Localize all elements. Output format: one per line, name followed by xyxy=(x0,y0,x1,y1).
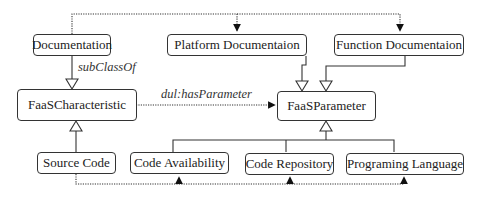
subclass-edge-platform xyxy=(302,56,306,81)
node-programing-language: Programing Language xyxy=(346,153,464,175)
node-faas-characteristic: FaaSCharacteristic xyxy=(17,89,137,121)
node-code-repository: Code Repository xyxy=(245,153,334,175)
node-source-code: Source Code xyxy=(37,152,116,174)
dotted-edge-documentation-function xyxy=(237,14,400,31)
subclass-edge-parameters xyxy=(173,140,394,152)
node-code-availability: Code Availability xyxy=(130,152,229,174)
label-has-parameter: dul:hasParameter xyxy=(161,87,252,102)
node-function-documentation: Function Documentaion xyxy=(334,34,464,56)
node-documentation: Documentation xyxy=(33,34,111,56)
label-subclass-of: subClassOf xyxy=(78,60,136,75)
dotted-edge-source-code xyxy=(76,174,404,184)
dotted-edge-documentation-platform xyxy=(72,14,237,34)
subclass-edge-function xyxy=(326,56,405,81)
node-platform-documentation: Platform Documentaion xyxy=(167,34,307,56)
node-faas-parameter: FaaSParameter xyxy=(277,91,376,121)
